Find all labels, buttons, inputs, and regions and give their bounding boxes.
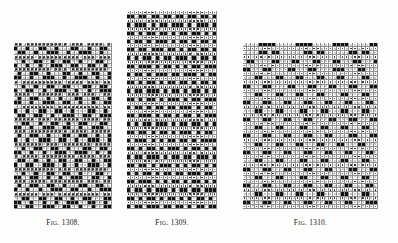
pattern-cell <box>213 205 217 209</box>
caption-number-1308: . 1308. <box>58 218 80 227</box>
figure-1309 <box>127 11 217 209</box>
pattern-cell <box>374 205 378 209</box>
figure-caption-1308: FIG. 1308. <box>14 218 112 227</box>
caption-smallcaps-1309: IG <box>160 220 167 226</box>
caption-number-1309: . 1309. <box>167 218 189 227</box>
caption-number-1310: . 1310. <box>305 218 327 227</box>
pattern-grid-1308 <box>14 43 112 209</box>
pattern-grid-1309 <box>127 11 217 209</box>
caption-smallcaps-1308: IG <box>51 220 58 226</box>
pattern-cell <box>108 205 112 209</box>
figure-1308 <box>14 43 112 209</box>
pattern-grid-1310 <box>243 43 378 209</box>
figure-1310 <box>243 43 378 209</box>
scanned-page: FIG. 1308. FIG. 1309. FIG. 1310. <box>0 0 398 243</box>
figure-caption-1310: FIG. 1310. <box>243 218 378 227</box>
figure-caption-1309: FIG. 1309. <box>127 218 217 227</box>
